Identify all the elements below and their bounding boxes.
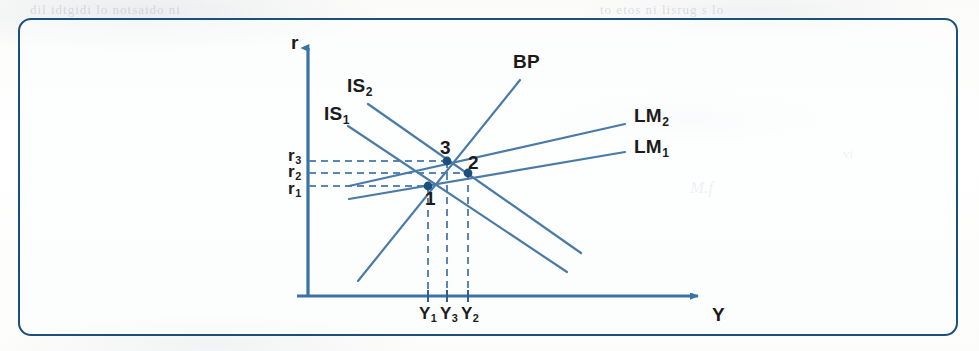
tick-label-Y1: Y1 xyxy=(419,305,437,322)
curve-label-LM2-text: LM xyxy=(634,105,662,126)
curve-label-IS1-sub: 1 xyxy=(342,113,349,127)
curve-label-IS1-text: IS xyxy=(324,103,342,124)
tick-label-Y3: Y3 xyxy=(440,305,458,322)
curve-label-IS2: IS2 xyxy=(347,76,373,95)
curve-LM1 xyxy=(349,152,625,199)
r-axis-label: r xyxy=(291,33,298,52)
y-axis-label: Y xyxy=(712,305,725,324)
tick-label-r2: r2 xyxy=(288,163,301,180)
curve-label-IS2-sub: 2 xyxy=(365,85,372,99)
point-label-2: 2 xyxy=(468,153,479,172)
curve-label-LM2-sub: 2 xyxy=(662,115,669,129)
tick-label-Y3-sub: 3 xyxy=(451,312,458,324)
point-label-3: 3 xyxy=(440,138,451,157)
tick-label-Y1-sub: 1 xyxy=(430,312,437,324)
curve-IS1 xyxy=(348,126,567,272)
curve-label-LM1: LM1 xyxy=(634,137,669,156)
curve-label-LM2: LM2 xyxy=(634,106,669,125)
curve-label-IS2-text: IS xyxy=(347,75,365,96)
figure-page: dil idtgidi lo notsaido ni to etos ni li… xyxy=(0,0,979,351)
curve-BP xyxy=(358,80,520,281)
tick-label-Y1-text: Y xyxy=(419,304,430,323)
tick-label-r1-text: r xyxy=(288,179,295,198)
tick-label-Y2: Y2 xyxy=(461,305,479,322)
curves-group xyxy=(348,80,625,281)
curve-label-IS1: IS1 xyxy=(324,104,350,123)
tick-label-Y3-text: Y xyxy=(440,304,451,323)
isl-lm-bp-plot xyxy=(0,0,979,351)
tick-label-Y2-text: Y xyxy=(461,304,472,323)
tick-label-r1: r1 xyxy=(288,180,301,197)
guide-lines-group xyxy=(309,161,468,296)
curve-label-LM1-text: LM xyxy=(634,136,662,157)
curve-label-LM1-sub: 1 xyxy=(662,146,669,160)
tick-label-Y2-sub: 2 xyxy=(472,312,479,324)
tick-label-r1-sub: 1 xyxy=(295,187,302,199)
curve-label-BP: BP xyxy=(513,52,540,71)
point-label-1: 1 xyxy=(425,189,436,208)
